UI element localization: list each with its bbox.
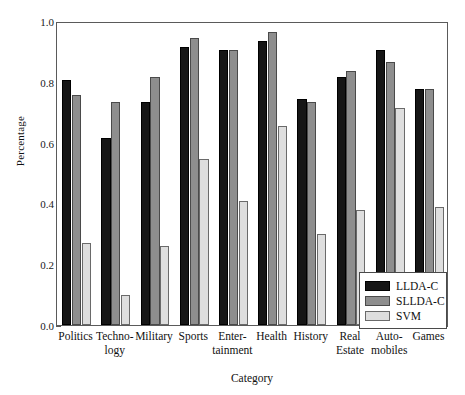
y-tick-label: 1.0 — [0, 16, 54, 28]
bar-group — [135, 23, 174, 325]
y-tick-label: 0.4 — [0, 198, 54, 210]
y-tick-mark — [56, 326, 61, 327]
x-axis-title: Category — [56, 372, 448, 384]
bar — [219, 50, 228, 325]
y-tick-label: 0.2 — [0, 259, 54, 271]
bar — [199, 159, 208, 325]
bar — [150, 77, 159, 325]
legend-item-sllda-c: SLLDA-C — [365, 293, 442, 308]
legend-label: SLLDA-C — [396, 295, 445, 307]
bar — [297, 99, 306, 326]
bar — [160, 246, 169, 325]
legend-label: LLDA-C — [396, 280, 438, 292]
legend-item-svm: SVM — [365, 308, 442, 323]
bar-group — [96, 23, 135, 325]
bar — [190, 38, 199, 325]
legend-swatch-icon — [365, 296, 390, 306]
x-tick-label-line: Games — [401, 329, 456, 343]
bar — [141, 102, 150, 325]
bar — [346, 71, 355, 325]
bar — [268, 32, 277, 325]
bar-chart-figure: Percentage 0.00.20.40.60.81.0 PoliticsTe… — [0, 0, 465, 395]
bar — [239, 201, 248, 325]
bar — [258, 41, 267, 325]
x-tick-label-line: tainment — [205, 343, 260, 357]
bar — [101, 138, 110, 325]
bar — [278, 126, 287, 325]
y-tick-label: 0.0 — [0, 320, 54, 332]
bar — [72, 95, 81, 325]
legend-swatch-icon — [365, 281, 390, 291]
x-axis-tick-labels: PoliticsTechno-logyMilitarySportsEnter-t… — [56, 329, 448, 375]
legend-item-llda-c: LLDA-C — [365, 278, 442, 293]
bar-group — [292, 23, 331, 325]
bar — [111, 102, 120, 325]
y-tick-label: 0.8 — [0, 77, 54, 89]
bar — [180, 47, 189, 325]
bar — [307, 102, 316, 325]
chart-legend: LLDA-C SLLDA-C SVM — [359, 272, 447, 329]
x-tick-label: Games — [401, 329, 456, 343]
bar-group — [175, 23, 214, 325]
x-tick-label-line: logy — [87, 343, 142, 357]
bar — [337, 77, 346, 325]
bar-group — [253, 23, 292, 325]
y-tick-label: 0.6 — [0, 138, 54, 150]
bar — [62, 80, 71, 325]
bar — [229, 50, 238, 325]
bar — [317, 234, 326, 325]
legend-swatch-icon — [365, 311, 390, 321]
legend-label: SVM — [396, 310, 421, 322]
bar-group — [214, 23, 253, 325]
bar — [121, 295, 130, 325]
bar — [82, 243, 91, 325]
x-tick-label-line: mobiles — [362, 343, 417, 357]
bar-group — [57, 23, 96, 325]
